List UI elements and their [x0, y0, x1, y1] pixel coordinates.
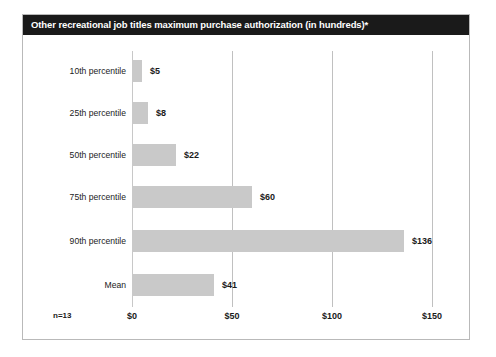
x-tick-label: $50 [224, 311, 239, 321]
bar-row: 90th percentile $136 [23, 221, 471, 261]
bar-rect[interactable] [132, 274, 214, 296]
bar-row: 50th percentile $22 [23, 135, 471, 175]
x-tick-label: $100 [322, 311, 342, 321]
chart-title-bar: Other recreational job titles maximum pu… [23, 15, 469, 35]
bar-rect[interactable] [132, 102, 148, 124]
bar-category-label: 75th percentile [70, 177, 126, 217]
bar-category-label: 90th percentile [70, 221, 126, 261]
bar-rect[interactable] [132, 230, 404, 252]
bar-row: Mean $41 [23, 265, 471, 305]
x-tick-label: $0 [127, 311, 137, 321]
bar-category-label: 25th percentile [70, 93, 126, 133]
bar-category-label: 10th percentile [70, 51, 126, 91]
bar-rect[interactable] [132, 144, 176, 166]
bar-row: 25th percentile $8 [23, 93, 471, 133]
x-axis: n=13 $0 $50 $100 $150 [23, 307, 471, 329]
bar-row: 10th percentile $5 [23, 51, 471, 91]
chart-frame: Other recreational job titles maximum pu… [22, 14, 470, 340]
bar-value-label: $5 [150, 60, 160, 82]
bar-value-label: $41 [222, 274, 237, 296]
x-tick-label: $150 [422, 311, 442, 321]
sample-size-label: n=13 [53, 311, 71, 320]
plot-area: 10th percentile $5 25th percentile $8 50… [23, 35, 471, 340]
bar-value-label: $60 [260, 186, 275, 208]
bar-rect[interactable] [132, 60, 142, 82]
bar-row: 75th percentile $60 [23, 177, 471, 217]
bar-category-label: 50th percentile [70, 135, 126, 175]
bar-value-label: $22 [184, 144, 199, 166]
bar-value-label: $136 [412, 230, 432, 252]
bar-category-label: Mean [105, 265, 127, 305]
bar-value-label: $8 [156, 102, 166, 124]
bar-rect[interactable] [132, 186, 252, 208]
page-title: Other recreational job titles maximum pu… [31, 15, 368, 35]
